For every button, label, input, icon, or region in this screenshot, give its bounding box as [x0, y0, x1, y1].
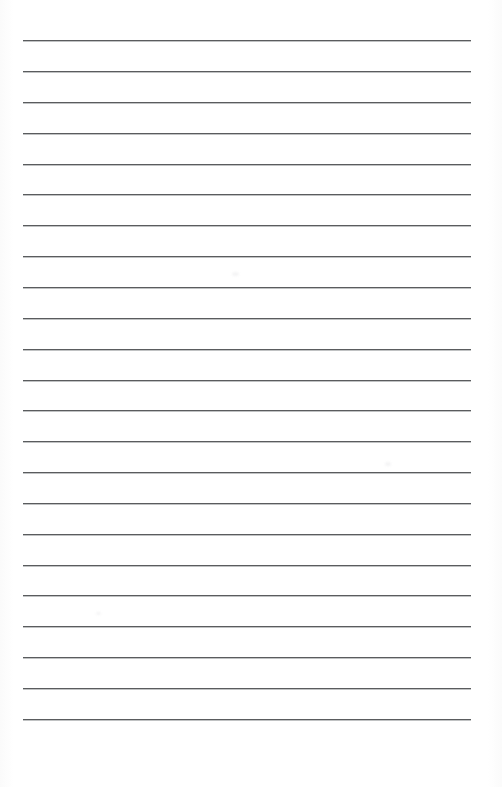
ruled-lines-layer — [0, 0, 502, 787]
notebook-page — [0, 0, 502, 787]
rule-line — [23, 380, 471, 381]
rule-line — [23, 71, 471, 72]
rule-line — [23, 40, 471, 41]
rule-line — [23, 503, 471, 504]
rule-line — [23, 318, 471, 319]
rule-line — [23, 256, 471, 257]
rule-line — [23, 688, 471, 689]
rule-line — [23, 565, 471, 566]
rule-line — [23, 102, 471, 103]
rule-line — [23, 595, 471, 596]
rule-line — [23, 164, 471, 165]
rule-line — [23, 225, 471, 226]
rule-line — [23, 133, 471, 134]
rule-line — [23, 287, 471, 288]
rule-line — [23, 194, 471, 195]
rule-line — [23, 472, 471, 473]
rule-line — [23, 349, 471, 350]
rule-line — [23, 626, 471, 627]
rule-line — [23, 657, 471, 658]
rule-line — [23, 441, 471, 442]
rule-line — [23, 719, 471, 720]
rule-line — [23, 534, 471, 535]
rule-line — [23, 410, 471, 411]
